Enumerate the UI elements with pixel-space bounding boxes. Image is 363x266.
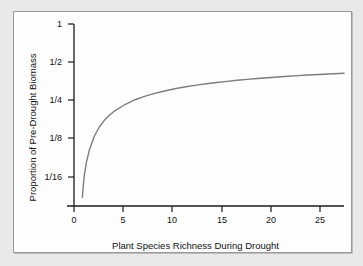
x-tick-marks [74, 206, 320, 212]
x-tick-label-10: 10 [167, 215, 177, 225]
data-series-line [82, 73, 344, 197]
x-tick-label-25: 25 [315, 215, 325, 225]
y-tick-marks [68, 24, 74, 177]
x-tick-label-5: 5 [120, 215, 125, 225]
y-axis-title: Proportion of Pre-Drought Biomass [27, 33, 38, 223]
x-tick-label-0: 0 [71, 215, 76, 225]
chart-figure: 1 1/2 1/4 1/8 1/16 0 5 10 15 20 25 Plant… [0, 0, 363, 266]
x-tick-label-20: 20 [266, 215, 276, 225]
chart-frame: 1 1/2 1/4 1/8 1/16 0 5 10 15 20 25 Plant… [13, 11, 352, 253]
y-tick-label-1: 1 [26, 19, 62, 29]
x-axis-title: Plant Species Richness During Drought [14, 240, 363, 251]
x-tick-label-15: 15 [217, 215, 227, 225]
plot-area [14, 12, 351, 252]
